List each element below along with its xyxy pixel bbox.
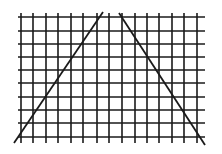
right-diagonal <box>119 13 205 145</box>
grid-diagram <box>0 0 222 154</box>
grid-diagram-svg <box>0 0 222 154</box>
